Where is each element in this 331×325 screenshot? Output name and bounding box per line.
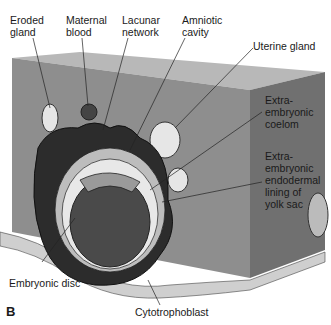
primary-yolk-sac bbox=[70, 177, 150, 267]
label-eroded-gland: Eroded gland bbox=[10, 14, 44, 38]
label-cytotrophoblast: Cytotrophoblast bbox=[135, 306, 209, 318]
label-maternal-blood: Maternal blood bbox=[66, 14, 107, 38]
label-uterine-gland: Uterine gland bbox=[253, 40, 315, 52]
label-embryonic-disc: Embryonic disc bbox=[9, 277, 80, 289]
label-amniotic-cavity: Amniotic cavity bbox=[182, 14, 222, 38]
label-lacunar-network: Lacunar network bbox=[122, 14, 160, 38]
maternal-blood-shape bbox=[81, 104, 97, 120]
eroded-gland-shape bbox=[42, 104, 58, 132]
label-extraembryonic-endoderm: Extra- embryonic endodermal lining of yo… bbox=[265, 150, 320, 210]
label-extraembryonic-coelom: Extra- embryonic coelom bbox=[265, 94, 313, 130]
panel-letter: B bbox=[6, 304, 15, 319]
uterine-gland-shape-2 bbox=[168, 168, 188, 192]
